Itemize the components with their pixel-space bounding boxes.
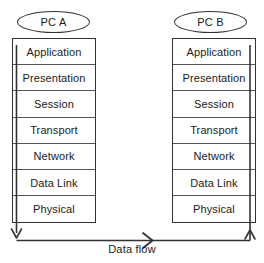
node-label-pc-a-text: PC A (41, 16, 67, 28)
node-label-pc-a: PC A (17, 11, 90, 33)
layer-label-application: Application (187, 46, 242, 58)
up-arrow-icon (245, 230, 255, 239)
layer-label-presentation: Presentation (183, 72, 246, 84)
layer-row-data-link: Data Link (173, 170, 255, 196)
layer-label-data-link: Data Link (190, 177, 237, 189)
layer-label-data-link: Data Link (30, 177, 77, 189)
layer-label-network: Network (193, 150, 234, 162)
layer-row-network: Network (173, 144, 255, 170)
down-arrow-icon (12, 229, 22, 238)
layer-row-physical: Physical (13, 196, 95, 222)
layer-row-physical: Physical (173, 196, 255, 222)
data-flow-caption: Data flow (0, 243, 264, 255)
layer-row-transport: Transport (173, 118, 255, 144)
layer-label-physical: Physical (33, 203, 75, 215)
layer-row-data-link: Data Link (13, 170, 95, 196)
layer-label-application: Application (27, 46, 82, 58)
layer-row-presentation: Presentation (173, 65, 255, 91)
layer-row-session: Session (173, 91, 255, 117)
osi-data-flow-diagram: PC A PC B Application Presentation Sessi… (0, 0, 264, 263)
layer-label-session: Session (194, 98, 234, 110)
layer-label-network: Network (33, 150, 74, 162)
layer-row-network: Network (13, 144, 95, 170)
layer-row-application: Application (13, 39, 95, 65)
protocol-stack-pc-a: Application Presentation Session Transpo… (12, 38, 96, 223)
layer-row-session: Session (13, 91, 95, 117)
node-label-pc-b: PC B (174, 11, 247, 33)
layer-row-application: Application (173, 39, 255, 65)
layer-row-transport: Transport (13, 118, 95, 144)
layer-label-presentation: Presentation (23, 72, 86, 84)
node-label-pc-b-text: PC B (197, 16, 223, 28)
layer-label-session: Session (34, 98, 74, 110)
layer-label-physical: Physical (193, 203, 235, 215)
layer-row-presentation: Presentation (13, 65, 95, 91)
layer-label-transport: Transport (190, 124, 238, 136)
protocol-stack-pc-b: Application Presentation Session Transpo… (172, 38, 256, 223)
layer-label-transport: Transport (30, 124, 78, 136)
